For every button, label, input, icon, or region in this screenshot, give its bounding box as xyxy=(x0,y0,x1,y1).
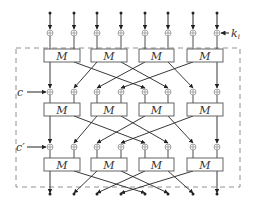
permutation-wire xyxy=(121,171,193,193)
output-dot xyxy=(49,193,52,196)
xor-icon xyxy=(118,144,124,150)
permutation-wire xyxy=(168,62,193,88)
permutation-wire xyxy=(121,62,168,88)
permutation-wire xyxy=(97,62,145,88)
output-dot xyxy=(167,193,170,196)
m-box-label: M xyxy=(55,50,68,63)
key-label: ki xyxy=(231,27,240,41)
output-dot xyxy=(216,193,219,196)
m-box-label: M xyxy=(150,50,163,63)
xor-icon xyxy=(190,89,196,95)
xor-icon xyxy=(190,144,196,150)
xor-icon xyxy=(94,144,100,150)
permutation-wire xyxy=(121,116,168,143)
xor-icon xyxy=(118,89,124,95)
permutation-wire xyxy=(74,116,145,143)
xor-icon xyxy=(142,30,148,36)
permutation-wire xyxy=(74,171,145,193)
m-box-label: M xyxy=(102,159,115,172)
output-dot xyxy=(73,193,76,196)
m-box-label: M xyxy=(55,159,68,172)
output-dot xyxy=(144,193,147,196)
output-dot xyxy=(192,193,195,196)
m-box-label: M xyxy=(198,50,211,63)
xor-icon xyxy=(71,144,77,150)
permutation-wire xyxy=(121,171,168,193)
xor-icon xyxy=(71,30,77,36)
xor-icon xyxy=(165,89,171,95)
output-dot xyxy=(120,193,123,196)
xor-icon xyxy=(71,89,77,95)
permutation-wire xyxy=(74,62,145,88)
permutation-wire xyxy=(97,171,145,193)
xor-icon xyxy=(165,30,171,36)
m-box-label: M xyxy=(150,159,163,172)
m-box-label: M xyxy=(102,50,115,63)
permutation-wire xyxy=(121,62,193,88)
xor-icon xyxy=(214,144,220,150)
m-box-label: M xyxy=(55,104,68,117)
m-boxes: MMMMMMMMMMMM xyxy=(44,49,223,172)
xor-icon xyxy=(47,144,53,150)
m-box-label: M xyxy=(150,104,163,117)
m-box-label: M xyxy=(102,104,115,117)
permutation-wire xyxy=(97,116,145,143)
m-box-label: M xyxy=(198,104,211,117)
xor-icon xyxy=(118,30,124,36)
xor-icon xyxy=(94,89,100,95)
xor-icon xyxy=(165,144,171,150)
xor-icon xyxy=(214,89,220,95)
xor-icon xyxy=(94,30,100,36)
permutation-wire xyxy=(168,171,193,193)
xor-icon xyxy=(190,30,196,36)
xor-icon xyxy=(47,30,53,36)
output-dot xyxy=(96,193,99,196)
xor-icon xyxy=(142,89,148,95)
xor-icon xyxy=(47,89,53,95)
permutation-wire xyxy=(121,116,193,143)
xor-icon xyxy=(214,30,220,36)
mixing-network-diagram: MMMMMMMMMMMM ki c c′ xyxy=(0,0,261,206)
constant-c-prime-label: c′ xyxy=(16,141,25,154)
m-box-label: M xyxy=(198,159,211,172)
xor-icon xyxy=(142,144,148,150)
permutation-wire xyxy=(168,116,193,143)
constant-c-label: c xyxy=(17,86,23,99)
